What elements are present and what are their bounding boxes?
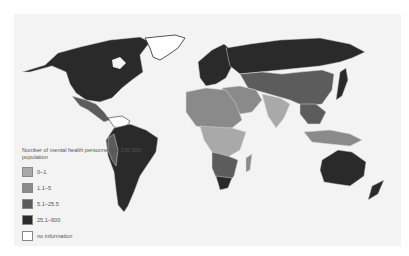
region-new-zealand <box>368 180 384 200</box>
legend-swatch <box>22 183 33 193</box>
legend-swatch <box>22 231 33 241</box>
legend-item-25-600: 25.1–600 <box>22 214 142 225</box>
legend-label: 0–1 <box>37 169 46 175</box>
region-russia <box>226 38 365 74</box>
legend-swatch <box>22 215 33 225</box>
legend-label: 1.1–5 <box>37 185 51 191</box>
region-greenland <box>145 35 185 60</box>
region-south-asia <box>262 94 290 128</box>
region-madagascar <box>246 154 252 172</box>
region-southeast-asia <box>300 104 326 124</box>
map-legend: Number of mental health personnel per 10… <box>22 147 142 241</box>
region-north-america <box>22 37 150 102</box>
region-south-africa <box>216 176 232 190</box>
legend-label: 25.1–600 <box>37 217 60 223</box>
legend-item-0-1: 0–1 <box>22 166 142 177</box>
region-japan <box>336 68 348 100</box>
legend-label: 5.1–25.5 <box>37 201 59 207</box>
region-australia <box>320 150 366 186</box>
legend-swatch <box>22 167 33 177</box>
legend-item-5-25: 5.1–25.5 <box>22 198 142 209</box>
legend-item-1-5: 1.1–5 <box>22 182 142 193</box>
legend-label: no information <box>37 233 72 239</box>
region-central-africa <box>200 126 246 158</box>
legend-title: Number of mental health personnel per 10… <box>22 147 142 161</box>
legend-item-no-information: no information <box>22 230 142 241</box>
legend-swatch <box>22 199 33 209</box>
region-indonesia <box>304 130 362 146</box>
